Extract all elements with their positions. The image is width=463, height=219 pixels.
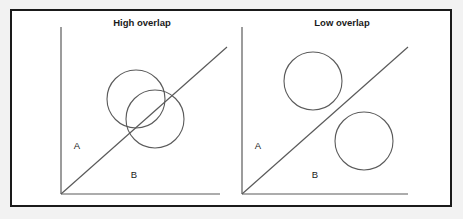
- cluster-circle-2: [126, 90, 184, 148]
- region-label-a: A: [74, 140, 81, 151]
- panel-title: High overlap: [113, 17, 171, 28]
- region-label-b: B: [312, 169, 318, 180]
- figure-root: ABHigh overlapABLow overlap: [0, 0, 463, 219]
- diagonal-divider-line: [61, 47, 227, 194]
- cluster-circle-1: [284, 52, 342, 110]
- region-label-a: A: [255, 140, 262, 151]
- panel-title: Low overlap: [314, 17, 370, 28]
- diagonal-divider-line: [242, 47, 408, 194]
- figure-border-frame: ABHigh overlapABLow overlap: [10, 9, 452, 207]
- panel-high-overlap: ABHigh overlap: [61, 17, 227, 194]
- panel-low-overlap: ABLow overlap: [242, 17, 408, 194]
- cluster-circle-2: [335, 112, 393, 170]
- cluster-circle-1: [107, 70, 165, 128]
- region-label-b: B: [131, 169, 137, 180]
- overlap-diagram: ABHigh overlapABLow overlap: [12, 11, 450, 205]
